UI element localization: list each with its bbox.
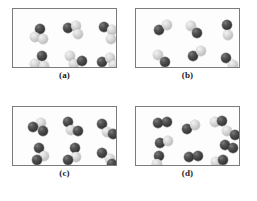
light-atom-sphere-icon [190, 120, 200, 130]
light-atom-sphere-icon [152, 159, 162, 166]
dark-atom-sphere-icon [38, 126, 48, 136]
dark-atom-sphere-icon [192, 28, 202, 38]
panel-box [12, 8, 117, 68]
dark-atom-sphere-icon [228, 143, 238, 153]
panel-label: (a) [12, 70, 117, 80]
dark-atom-sphere-icon [28, 122, 38, 132]
dark-atom-sphere-icon [107, 159, 117, 166]
light-atom-sphere-icon [162, 20, 172, 30]
panel-box [12, 106, 117, 166]
dark-atom-sphere-icon [77, 56, 87, 66]
dark-atom-sphere-icon [193, 151, 203, 161]
dark-atom-sphere-icon [63, 155, 73, 165]
light-atom-sphere-icon [73, 29, 83, 39]
panel-label: (c) [12, 168, 117, 178]
molecule-diagram-figure: (a)(b)(c)(d) [0, 0, 257, 201]
dark-atom-sphere-icon [162, 117, 172, 127]
light-atom-sphere-icon [38, 34, 48, 44]
panel-a: (a) [12, 8, 117, 84]
dark-atom-sphere-icon [217, 116, 227, 126]
panel-b: (b) [135, 8, 240, 84]
dark-atom-sphere-icon [218, 155, 228, 165]
panel-d: (d) [135, 106, 240, 182]
panel-box [135, 106, 240, 166]
dark-atom-sphere-icon [230, 130, 240, 140]
light-atom-sphere-icon [228, 60, 238, 68]
light-atom-sphere-icon [163, 136, 173, 146]
light-atom-sphere-icon [39, 61, 49, 68]
panel-label: (b) [135, 70, 240, 80]
panel-c: (c) [12, 106, 117, 182]
dark-atom-sphere-icon [160, 57, 170, 67]
panel-box [135, 8, 240, 68]
dark-atom-sphere-icon [108, 129, 117, 139]
light-atom-sphere-icon [109, 60, 117, 68]
light-atom-sphere-icon [106, 34, 116, 44]
light-atom-sphere-icon [223, 30, 233, 40]
dark-atom-sphere-icon [73, 126, 83, 136]
dark-atom-sphere-icon [222, 20, 232, 30]
light-atom-sphere-icon [196, 46, 206, 56]
panel-label: (d) [135, 168, 240, 178]
dark-atom-sphere-icon [32, 155, 42, 165]
